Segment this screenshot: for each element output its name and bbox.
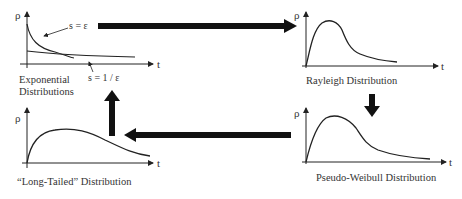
y-axis-label: ρ — [294, 107, 300, 119]
x-axis-label: t — [449, 156, 452, 168]
rayleigh-panel — [302, 12, 438, 68]
exponential-label-line1: Exponential — [19, 74, 70, 86]
x-axis-label: t — [441, 60, 444, 72]
pseudo-weibull-panel — [302, 108, 446, 164]
flow-arrow-left — [124, 128, 291, 142]
pseudo-weibull-label: Pseudo-Weibull Distribution — [316, 172, 436, 184]
y-axis-label: ρ — [15, 9, 21, 21]
long-tailed-label: “Long-Tailed” Distribution — [17, 176, 131, 188]
x-axis-label: t — [157, 157, 160, 169]
x-axis-label: t — [157, 58, 160, 70]
exponential-label-line2: Distributions — [19, 86, 74, 98]
annotation-s-inverse-epsilon: s = 1 / ε — [88, 72, 120, 83]
flow-arrow-right — [98, 19, 297, 33]
pointer-s-epsilon — [44, 28, 68, 36]
flow-arrow-down — [364, 94, 380, 117]
rayleigh-curve — [306, 21, 397, 66]
curve-s-inverse-epsilon — [27, 51, 135, 57]
y-axis-label: ρ — [15, 112, 21, 124]
rayleigh-label: Rayleigh Distribution — [306, 75, 397, 87]
pseudo-weibull-curve — [306, 116, 430, 162]
y-axis-label: ρ — [294, 9, 300, 21]
annotation-s-epsilon: s = ε — [69, 20, 88, 31]
flow-arrow-up — [104, 90, 120, 136]
